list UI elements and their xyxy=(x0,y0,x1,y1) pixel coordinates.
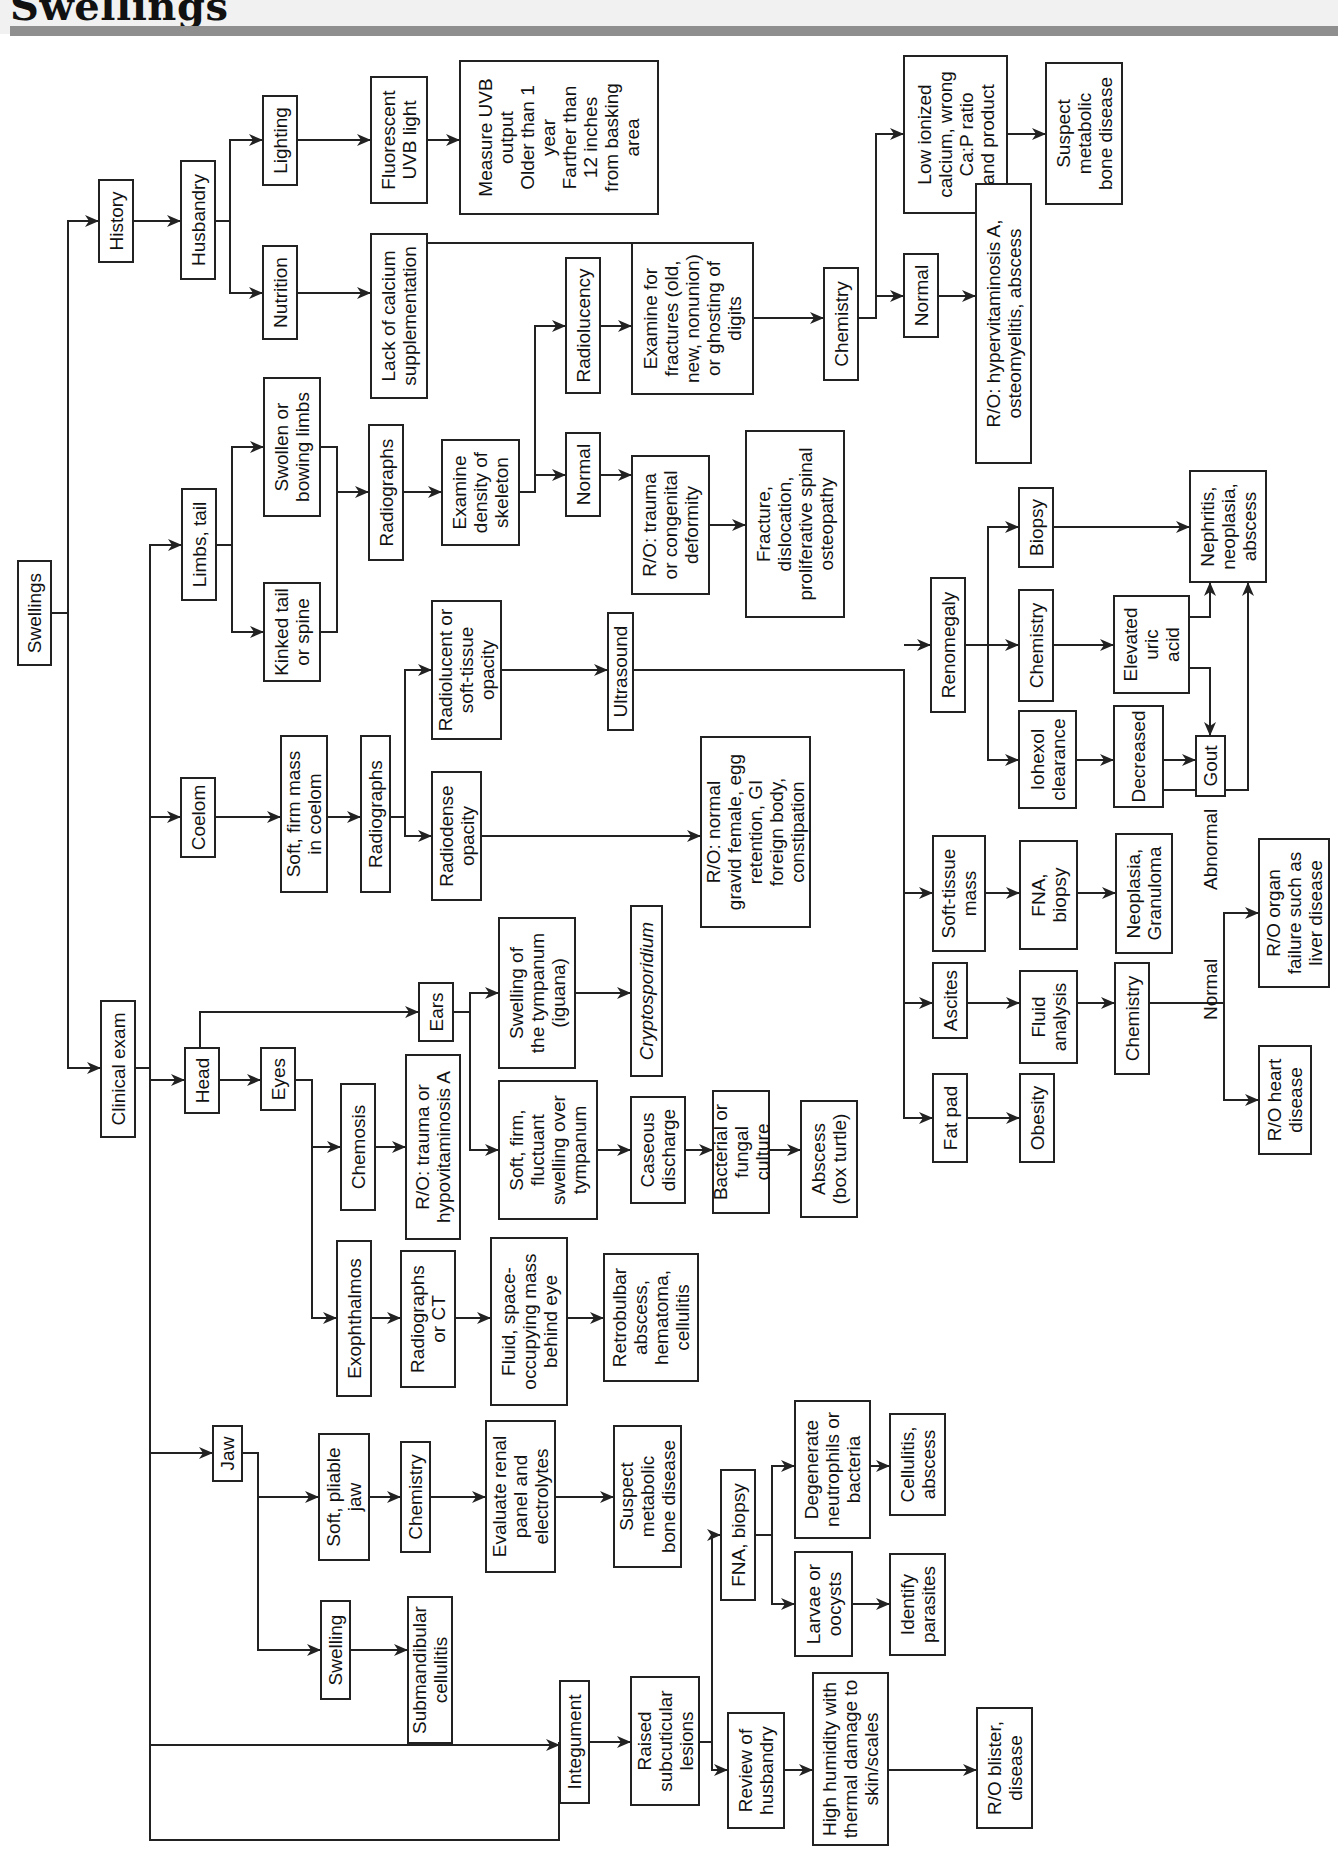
flowchart-node-swellings: Swellings xyxy=(17,560,52,666)
flowchart-node-chemistry-ascites: Chemistry xyxy=(1114,962,1150,1075)
node-label: Chemistry xyxy=(1026,603,1047,689)
flowchart-node-chemosis: Chemosis xyxy=(340,1083,376,1211)
flowchart-node-soft-pliable-jaw: Soft, pliable jaw xyxy=(318,1433,370,1561)
node-label: Normal xyxy=(911,265,932,326)
edge-label-abnormal: Abnormal xyxy=(1200,809,1222,890)
flowchart-node-ascites: Ascites xyxy=(932,962,968,1039)
flowchart-node-fracture-dislocation: Fracture, dislocation, proliferative spi… xyxy=(745,430,845,618)
node-label: Lighting xyxy=(270,107,291,174)
node-label: Chemistry xyxy=(405,1454,426,1540)
node-label: Submandibular cellulitis xyxy=(409,1606,451,1734)
node-label: Coelom xyxy=(188,785,209,850)
node-label: Ascites xyxy=(940,970,961,1031)
flowchart-node-fluid-analysis: Fluid analysis xyxy=(1019,970,1078,1064)
node-label: Abscess (box turtle) xyxy=(808,1114,850,1205)
node-label: Measure UVB output Older than 1 year Far… xyxy=(475,78,643,196)
flowchart-node-chemistry-kidney: Chemistry xyxy=(1018,589,1054,702)
flowchart-node-bacterial-fungal: Bacterial or fungal culture xyxy=(712,1090,770,1214)
node-label: Identify parasites xyxy=(897,1566,939,1643)
node-label: Biopsy xyxy=(1026,499,1047,556)
flowchart-node-soft-firm-mass: Soft, firm mass in coelom xyxy=(280,735,328,893)
flowchart-node-ro-organ-failure: R/O organ failure such as liver disease xyxy=(1258,838,1330,988)
node-label: Radiolucency xyxy=(573,268,594,382)
node-label: Gout xyxy=(1200,745,1221,786)
flowchart-node-integument: Integument xyxy=(559,1680,590,1804)
node-label: Cellulitis, abscess xyxy=(897,1426,939,1502)
flowchart-node-retrobulbar: Retrobulbar abscess, hematoma, celluliti… xyxy=(603,1253,699,1382)
flowchart-node-cryptosporidium: Cryptosporidium xyxy=(630,905,663,1077)
flowchart-node-soft-tissue-mass: Soft-tissue mass xyxy=(932,835,986,952)
flowchart-node-head: Head xyxy=(184,1047,220,1114)
node-label: Retrobulbar abscess, hematoma, celluliti… xyxy=(609,1268,693,1367)
flowchart-node-decreased: Decreased xyxy=(1113,705,1164,808)
node-label: Degenerate neutrophils or bacteria xyxy=(801,1412,864,1527)
node-label: FNA, biopsy xyxy=(728,1483,749,1586)
node-label: FNA, biopsy xyxy=(1028,868,1070,923)
flowchart-node-gout: Gout xyxy=(1195,735,1226,797)
node-label: R/O blister, disease xyxy=(984,1721,1026,1815)
node-label: Suspect metabolic bone disease xyxy=(1053,77,1116,190)
flowchart-node-radiolucent-soft-tissue: Radiolucent or soft-tissue opacity xyxy=(431,600,502,740)
flowchart-node-limbs-tail: Limbs, tail xyxy=(181,488,217,601)
node-label: High humidity with thermal damage to ski… xyxy=(819,1680,882,1838)
flowchart-node-kinked-tail: Kinked tail or spine xyxy=(263,582,321,682)
flowchart-node-biopsy-kidney: Biopsy xyxy=(1018,487,1054,568)
flowchart-node-raised-subcuticular: Raised subcuticular lesions xyxy=(630,1676,700,1806)
flowchart-node-nutrition: Nutrition xyxy=(262,245,298,340)
flowchart-node-swelling-jaw: Swelling xyxy=(320,1600,351,1700)
node-label: Soft-tissue mass xyxy=(938,849,980,939)
flowchart-node-nephritis-neoplasia: Nephritis, neoplasia, abscess xyxy=(1189,470,1267,583)
node-label: Kinked tail or spine xyxy=(271,588,313,676)
flowchart-node-radiolucency: Radiolucency xyxy=(565,257,601,394)
node-label: Radiolucent or soft-tissue opacity xyxy=(435,609,498,732)
node-label: Evaluate renal panel and electrolytes xyxy=(489,1436,552,1557)
flowchart-node-normal-skeleton: Normal xyxy=(565,432,601,517)
node-label: Swellings xyxy=(24,573,45,653)
node-label: Decreased xyxy=(1128,711,1149,803)
node-label: Clinical exam xyxy=(108,1013,129,1126)
flowchart-node-husbandry: Husbandry xyxy=(180,160,216,280)
node-label: Low ionized calcium, wrong Ca:P ratio an… xyxy=(914,71,998,198)
node-label: Suspect metabolic bone disease xyxy=(616,1440,679,1553)
node-label: Renomegaly xyxy=(938,592,959,699)
flowchart-node-fluid-mass-eye: Fluid, space- occupying mass behind eye xyxy=(490,1237,568,1406)
flowchart-node-chemistry-jaw: Chemistry xyxy=(400,1441,431,1553)
node-label: Soft, pliable jaw xyxy=(323,1447,365,1546)
flowchart-node-radiographs-limbs: Radiographs xyxy=(368,424,404,561)
flowchart-node-radiodense-opacity: Radiodense opacity xyxy=(431,771,482,901)
flowchart-node-degenerate-neutrophils: Degenerate neutrophils or bacteria xyxy=(794,1400,871,1539)
node-label: Chemosis xyxy=(348,1105,369,1189)
node-label: Lack of calcium supplementation xyxy=(378,246,420,385)
node-label: Fluorescent UVB light xyxy=(378,90,420,189)
node-label: Swelling xyxy=(325,1615,346,1686)
node-label: Fracture, dislocation, proliferative spi… xyxy=(753,447,837,600)
node-label: Raised subcuticular lesions xyxy=(634,1690,697,1791)
flowchart-node-cellulitis-abscess: Cellulitis, abscess xyxy=(889,1413,946,1516)
node-label: Radiographs xyxy=(365,760,386,868)
node-label: Limbs, tail xyxy=(189,502,210,588)
node-label: R/O: hypervitaminosis A, osteomyelitis, … xyxy=(983,219,1025,427)
node-label: Caseous discharge xyxy=(637,1109,679,1191)
node-label: R/O: trauma or hypovitaminosis A xyxy=(412,1071,454,1223)
node-label: Radiodense opacity xyxy=(436,785,478,886)
flowchart-node-submandibular-cellulitis: Submandibular cellulitis xyxy=(407,1596,453,1744)
flowchart-node-examine-fractures: Examine for fractures (old, new, nonunio… xyxy=(631,242,754,395)
flowchart-node-swelling-tympanum: Swelling of the tympanum (iguana) xyxy=(498,917,576,1069)
node-label: Integument xyxy=(564,1694,585,1789)
flowchart-node-caseous-discharge: Caseous discharge xyxy=(630,1096,686,1204)
node-label: Head xyxy=(192,1058,213,1103)
flowchart-node-evaluate-renal: Evaluate renal panel and electrolytes xyxy=(485,1420,556,1573)
node-label: Larvae or oocysts xyxy=(803,1564,845,1644)
node-label: Bacterial or fungal culture xyxy=(710,1096,773,1208)
flowchart-node-high-humidity: High humidity with thermal damage to ski… xyxy=(812,1672,889,1846)
flowchart-node-lack-calcium: Lack of calcium supplementation xyxy=(370,233,428,399)
flowchart-node-ro-trauma-hypovit: R/O: trauma or hypovitaminosis A xyxy=(405,1054,461,1240)
node-label: Swelling of the tympanum (iguana) xyxy=(506,933,569,1053)
flowchart-node-suspect-mbd-jaw: Suspect metabolic bone disease xyxy=(613,1425,682,1568)
node-label: Nutrition xyxy=(270,257,291,328)
node-label: Cryptosporidium xyxy=(636,922,657,1060)
flowchart-node-coelom: Coelom xyxy=(180,777,216,858)
flowchart-node-fna-biopsy-skin: FNA, biopsy xyxy=(720,1469,756,1601)
node-label: Radiographs or CT xyxy=(407,1265,449,1373)
flowchart-node-suspect-mbd-top: Suspect metabolic bone disease xyxy=(1045,62,1123,205)
